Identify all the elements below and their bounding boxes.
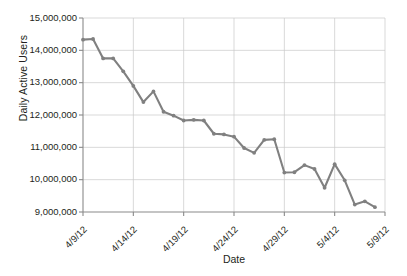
data-point-marker <box>192 118 196 122</box>
data-point-marker <box>333 162 337 166</box>
data-series-line <box>83 39 375 207</box>
data-point-marker <box>293 170 297 174</box>
data-point-marker <box>353 203 357 207</box>
line-chart: Daily Active Users 15,000,000 14,000,000… <box>0 0 407 276</box>
data-point-marker <box>152 90 156 94</box>
data-point-marker <box>91 37 95 41</box>
data-point-marker <box>373 205 377 209</box>
y-tick-marks <box>79 18 83 212</box>
data-point-marker <box>363 199 367 203</box>
data-point-marker <box>242 146 246 150</box>
data-point-marker <box>323 186 327 190</box>
data-point-marker <box>142 100 146 104</box>
data-point-marker <box>262 138 266 142</box>
data-point-marker <box>303 163 307 167</box>
data-point-marker <box>101 57 105 61</box>
data-point-marker <box>162 110 166 114</box>
gridlines <box>83 18 385 212</box>
data-point-marker <box>272 137 276 141</box>
data-point-marker <box>131 84 135 88</box>
data-point-marker <box>212 132 216 136</box>
data-point-marker <box>111 57 115 61</box>
x-tick-marks <box>83 212 385 216</box>
x-axis-title: Date <box>83 253 385 265</box>
data-point-marker <box>81 38 85 42</box>
data-point-marker <box>252 151 256 155</box>
data-point-marker <box>182 119 186 123</box>
data-point-marker <box>313 167 317 171</box>
data-point-marker <box>121 69 125 73</box>
data-point-markers <box>81 37 377 209</box>
data-point-marker <box>222 133 226 137</box>
data-point-marker <box>172 114 176 118</box>
data-point-marker <box>282 171 286 175</box>
data-point-marker <box>343 178 347 182</box>
data-point-marker <box>232 135 236 139</box>
plot-area <box>0 0 407 276</box>
data-point-marker <box>202 119 206 123</box>
